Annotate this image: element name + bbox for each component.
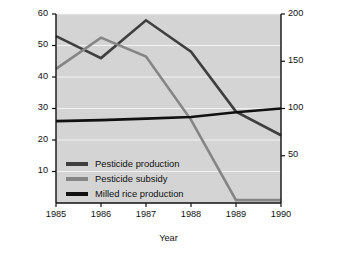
y-tick-left: 20 — [22, 134, 48, 144]
legend-item: Milled rice production — [66, 186, 184, 201]
x-tick: 1990 — [261, 209, 301, 219]
x-tick: 1987 — [126, 209, 166, 219]
chart-legend: Pesticide productionPesticide subsidyMil… — [66, 156, 184, 201]
y-tick-right: 200 — [288, 8, 318, 18]
x-tick: 1989 — [216, 209, 256, 219]
y-tick-left: 30 — [22, 102, 48, 112]
x-tick: 1986 — [81, 209, 121, 219]
x-tick: 1985 — [36, 209, 76, 219]
legend-label: Pesticide production — [95, 156, 179, 171]
chart-figure: Production (metric tons) Millions of dol… — [0, 0, 340, 253]
legend-item: Pesticide production — [66, 156, 184, 171]
legend-item: Pesticide subsidy — [66, 171, 184, 186]
legend-swatch-icon — [66, 162, 88, 166]
x-tick: 1988 — [171, 209, 211, 219]
y-tick-left: 40 — [22, 71, 48, 81]
y-tick-left: 50 — [22, 39, 48, 49]
legend-label: Pesticide subsidy — [95, 171, 167, 186]
legend-label: Milled rice production — [95, 186, 184, 201]
y-tick-right: 100 — [288, 102, 318, 112]
y-tick-right: 150 — [288, 55, 318, 65]
y-tick-right: 50 — [288, 149, 318, 159]
x-axis-label: Year — [56, 233, 281, 243]
legend-swatch-icon — [66, 177, 88, 181]
legend-swatch-icon — [66, 192, 88, 196]
y-tick-left: 10 — [22, 165, 48, 175]
y-tick-left: 60 — [22, 8, 48, 18]
